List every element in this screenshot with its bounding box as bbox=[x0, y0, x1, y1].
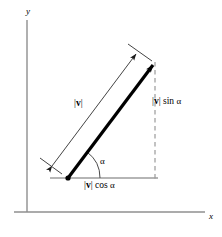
magnitude-dimension-shaft bbox=[52, 54, 136, 166]
vector-decomposition-figure: y x |v| |v| sin α |v| cos α α bbox=[0, 0, 222, 237]
magnitude-label: |v| bbox=[74, 99, 83, 109]
vertical-angle-symbol: α bbox=[176, 96, 181, 106]
vertical-trig-function: sin bbox=[161, 96, 177, 106]
vector-v bbox=[65, 65, 153, 181]
magnitude-bar-close: | bbox=[81, 98, 83, 108]
horizontal-component-label: |v| cos α bbox=[84, 181, 115, 191]
magnitude-dimension-line bbox=[40, 44, 152, 174]
angle-arc bbox=[87, 152, 100, 178]
y-axis-label: y bbox=[26, 7, 30, 16]
horizontal-angle-symbol: α bbox=[110, 180, 115, 190]
magnitude-extension-tick-lower bbox=[40, 158, 62, 174]
vertical-component-label: |v| sin α bbox=[152, 97, 181, 107]
vector-shaft bbox=[68, 65, 153, 178]
figure-canvas bbox=[0, 0, 222, 237]
magnitude-extension-tick-upper bbox=[128, 44, 152, 61]
x-axis-label: x bbox=[209, 212, 213, 221]
vector-origin-point bbox=[65, 175, 70, 180]
horizontal-trig-function: cos bbox=[93, 180, 110, 190]
angle-label: α bbox=[100, 157, 105, 166]
